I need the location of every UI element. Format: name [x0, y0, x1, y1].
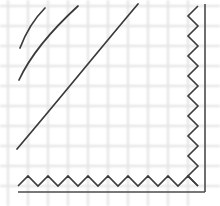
diagram-svg [0, 0, 220, 206]
diagram-canvas [0, 0, 220, 206]
